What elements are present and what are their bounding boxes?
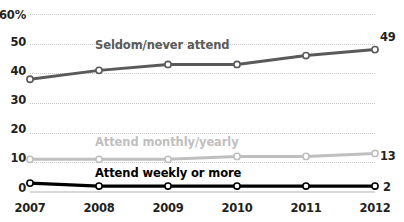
data-point-marker [372, 183, 378, 189]
end-value-seldom-never-attend: 49 [380, 30, 396, 44]
data-point-marker [372, 47, 378, 53]
y-tick-0: 0 [0, 181, 26, 195]
data-point-marker [27, 156, 33, 162]
series-attend-monthly-yearly [27, 150, 378, 162]
data-point-marker [27, 180, 33, 186]
series-label-seldom-never-attend: Seldom/never attend [95, 38, 229, 52]
data-point-marker [303, 183, 309, 189]
series-label-attend-weekly-or-more: Attend weekly or more [95, 166, 241, 180]
y-tick-20: 20 [0, 122, 26, 136]
series-label-attend-monthly-yearly: Attend monthly/yearly [95, 135, 239, 149]
series-line [30, 183, 375, 186]
end-value-attend-monthly-yearly: 13 [380, 149, 396, 163]
data-point-marker [96, 183, 102, 189]
series-attend-weekly-or-more [27, 180, 378, 189]
y-tick-30: 30 [0, 93, 26, 107]
x-tick-2008: 2008 [75, 201, 123, 215]
data-point-marker [165, 61, 171, 67]
y-tick-40: 40 [0, 64, 26, 78]
x-tick-2012: 2012 [351, 201, 399, 215]
series-line [30, 50, 375, 80]
data-point-marker [165, 183, 171, 189]
line-chart: 60% 50 40 30 20 10 0 Seldom/never attend… [0, 0, 404, 222]
data-point-marker [234, 153, 240, 159]
y-tick-10: 10 [0, 151, 26, 165]
data-point-marker [96, 156, 102, 162]
x-tick-2011: 2011 [282, 201, 330, 215]
end-value-attend-weekly-or-more: 2 [383, 180, 391, 194]
data-point-marker [234, 183, 240, 189]
y-tick-60: 60% [0, 8, 26, 22]
data-point-marker [234, 61, 240, 67]
data-point-marker [96, 67, 102, 73]
y-tick-50: 50 [0, 35, 26, 49]
data-point-marker [303, 153, 309, 159]
x-tick-2009: 2009 [144, 201, 192, 215]
x-tick-2010: 2010 [213, 201, 261, 215]
data-point-marker [303, 52, 309, 58]
data-point-marker [165, 156, 171, 162]
data-point-marker [27, 76, 33, 82]
series-line [30, 153, 375, 159]
x-tick-2007: 2007 [6, 201, 54, 215]
data-point-marker [372, 150, 378, 156]
